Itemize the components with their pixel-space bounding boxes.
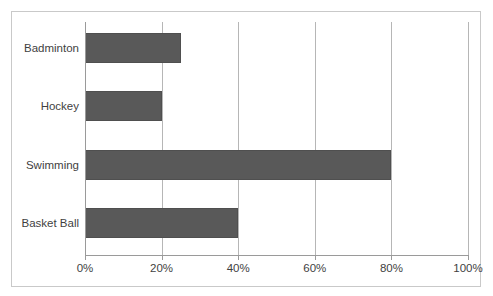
x-tick-label-40: 40% [227,262,250,274]
tickmark-80 [391,255,392,260]
bar-badminton[interactable] [85,33,181,63]
bar-hockey[interactable] [85,91,162,121]
x-tick-label-20: 20% [150,262,173,274]
category-label-basket-ball: Basket Ball [5,218,79,230]
tickmark-20 [162,255,163,260]
category-label-swimming: Swimming [5,160,79,172]
gridline-80 [391,22,392,255]
bar-basket-ball[interactable] [85,208,238,238]
gridline-40 [238,22,239,255]
tickmark-100 [468,255,469,260]
x-axis-labels: 0% 20% 40% 60% 80% 100% [85,262,469,280]
y-axis-labels: Badminton Hockey Swimming Basket Ball [0,22,79,255]
bar-chart-figure: Badminton Hockey Swimming Basket Ball 0%… [0,0,493,296]
tickmark-60 [315,255,316,260]
y-axis-line [85,22,86,256]
category-label-hockey: Hockey [5,101,79,113]
x-tick-label-80: 80% [380,262,403,274]
plot-area [85,22,468,255]
gridline-100 [468,22,469,255]
tickmark-0 [85,255,86,260]
tickmark-40 [238,255,239,260]
x-tick-label-0: 0% [77,262,94,274]
gridline-60 [315,22,316,255]
category-label-badminton: Badminton [5,43,79,55]
bar-swimming[interactable] [85,150,391,180]
x-tick-label-60: 60% [303,262,326,274]
x-tick-label-100: 100% [453,262,482,274]
x-axis-line [85,255,469,256]
